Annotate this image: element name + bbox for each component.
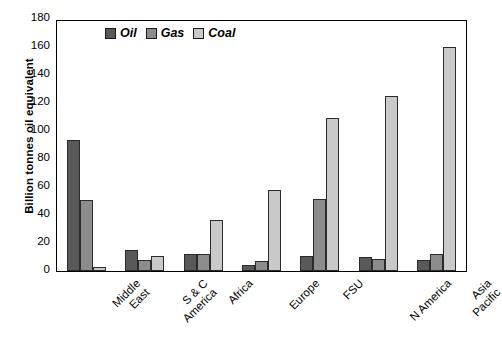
x-axis-label: AsiaPacific (461, 277, 502, 319)
x-axis-label: S & CAmerica (171, 277, 219, 325)
x-axis-label-line: FSU (341, 277, 366, 302)
x-axis-label-line: N America (408, 277, 454, 323)
x-axis-label: FSU (341, 277, 366, 302)
x-axis-label: Africa (226, 277, 256, 307)
x-axis-label-line: Europe (286, 277, 321, 312)
x-axis-label-line: Africa (226, 277, 256, 307)
x-axis-label: N America (408, 277, 454, 323)
x-axis-label: Europe (286, 277, 321, 312)
x-axis-label: MiddleEast (110, 277, 152, 319)
